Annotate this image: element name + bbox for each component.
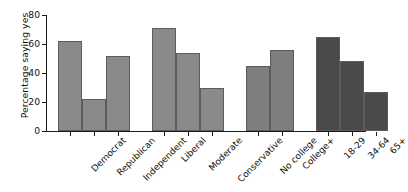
- bar: [200, 88, 224, 132]
- y-tick-label: 40: [28, 68, 40, 77]
- bar: [364, 92, 388, 131]
- bar: [176, 53, 200, 131]
- x-tick-mark: [70, 132, 71, 136]
- bar: [58, 41, 82, 131]
- x-tick-mark: [352, 132, 353, 136]
- x-tick-mark: [94, 132, 95, 136]
- y-tick-label: 80: [28, 10, 40, 19]
- y-tick-label: 60: [28, 39, 40, 48]
- bar: [270, 50, 294, 131]
- y-tick-mark: [42, 131, 47, 132]
- x-tick-mark: [118, 132, 119, 136]
- x-axis-label: Moderate: [208, 136, 245, 173]
- x-axis-label: 18-29: [343, 136, 368, 161]
- x-tick-mark: [188, 132, 189, 136]
- bar: [106, 56, 130, 131]
- x-tick-mark: [376, 132, 377, 136]
- plot-area: 020406080: [46, 15, 366, 131]
- x-tick-mark: [164, 132, 165, 136]
- x-tick-mark: [258, 132, 259, 136]
- y-tick-mark: [42, 15, 47, 16]
- bar: [82, 99, 106, 131]
- y-tick-mark: [42, 102, 47, 103]
- bar: [340, 61, 364, 131]
- x-tick-mark: [282, 132, 283, 136]
- x-tick-mark: [212, 132, 213, 136]
- x-axis-label: 65+: [389, 136, 408, 156]
- y-axis-line: [46, 15, 47, 131]
- x-axis-labels: DemocratRepublicanIndependentLiberalMode…: [46, 136, 366, 192]
- y-tick-label: 0: [34, 126, 40, 135]
- bar: [246, 66, 270, 131]
- bar: [152, 28, 176, 131]
- y-tick-mark: [42, 73, 47, 74]
- y-tick-label: 20: [28, 97, 40, 106]
- x-axis-label: Conservative: [236, 136, 284, 184]
- bar: [316, 37, 340, 131]
- y-tick-mark: [42, 44, 47, 45]
